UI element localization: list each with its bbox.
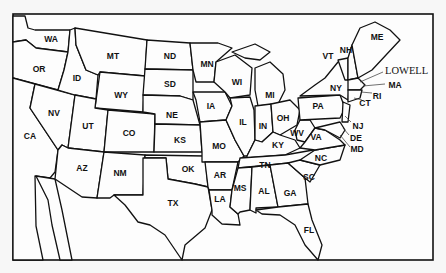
state-label-il: IL	[239, 117, 247, 127]
state-label-mn: MN	[200, 59, 213, 69]
state-label-in: IN	[259, 121, 268, 131]
state-label-az: AZ	[76, 163, 87, 173]
state-label-ms: MS	[234, 183, 247, 193]
state-label-ok: OK	[182, 164, 196, 174]
state-label-ga: GA	[284, 188, 297, 198]
state-label-wa: WA	[44, 34, 58, 44]
state-label-ri: RI	[373, 91, 382, 101]
state-label-ks: KS	[174, 135, 186, 145]
state-label-va: VA	[310, 132, 321, 142]
state-label-sc: SC	[303, 172, 315, 182]
state-label-oh: OH	[277, 113, 290, 123]
state-label-wv: WV	[290, 128, 304, 138]
state-label-ca: CA	[24, 131, 36, 141]
state-label-tn: TN	[259, 160, 270, 170]
state-label-la: LA	[214, 194, 225, 204]
state-label-wi: WI	[232, 77, 242, 87]
state-label-or: OR	[33, 64, 46, 74]
state-label-id: ID	[73, 73, 82, 83]
state-label-mi: MI	[265, 90, 274, 100]
state-label-ne: NE	[166, 110, 178, 120]
state-label-ia: IA	[207, 101, 216, 111]
state-label-ut: UT	[82, 121, 94, 131]
state-label-nh: NH	[340, 45, 352, 55]
state-label-de: DE	[350, 133, 362, 143]
state-label-nm: NM	[113, 168, 126, 178]
state-label-al: AL	[258, 186, 269, 196]
state-label-md: MD	[350, 144, 363, 154]
state-label-wy: WY	[114, 90, 128, 100]
state-label-sd: SD	[164, 79, 176, 89]
state-label-mo: MO	[212, 141, 226, 151]
state-label-nd: ND	[164, 51, 176, 61]
state-label-nv: NV	[48, 108, 60, 118]
state-label-nj: NJ	[353, 121, 364, 131]
state-label-fl: FL	[304, 225, 314, 235]
state-label-ar: AR	[214, 170, 226, 180]
state-label-ma: MA	[388, 80, 401, 90]
state-label-vt: VT	[323, 51, 335, 61]
state-label-me: ME	[371, 32, 384, 42]
state-label-ny: NY	[330, 83, 342, 93]
city-label-lowell: LOWELL	[385, 65, 428, 76]
state-label-ky: KY	[272, 140, 284, 150]
state-label-pa: PA	[312, 101, 323, 111]
state-label-mt: MT	[107, 51, 120, 61]
state-label-co: CO	[123, 128, 136, 138]
state-label-tx: TX	[168, 198, 179, 208]
us-states-map: WAORCAIDNVMTWYUTCOAZNMNDSDNEKSOKTXMNIAMO…	[0, 0, 446, 273]
state-label-nc: NC	[315, 153, 327, 163]
